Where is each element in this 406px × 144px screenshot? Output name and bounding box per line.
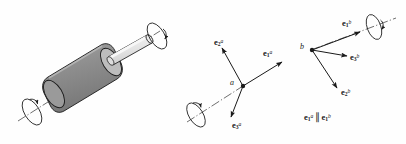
vector-e1-b-superscript: b <box>349 19 352 25</box>
vector-e1-b-label: e1b <box>342 19 351 29</box>
vector-e1-a-label: e1a <box>263 49 272 59</box>
rotation-ellipse-b <box>363 12 385 41</box>
vector-e2-b-superscript: b <box>348 88 351 94</box>
vector-e3-a-label: e3a <box>232 121 241 131</box>
triad-b-graphics <box>310 12 396 88</box>
vector-e2-a-label: e2a <box>214 38 223 48</box>
equation-right-superscript: b <box>328 113 331 119</box>
vector-e1-a-arrow <box>243 62 282 86</box>
vector-e3-b-superscript: b <box>357 53 360 59</box>
point-b-label: b <box>300 43 304 51</box>
rotation-ellipse-a <box>183 100 209 130</box>
parallel-relation-equation: e1a∥e1b <box>304 113 331 123</box>
equation-left-term: e1a <box>304 112 313 122</box>
figure-canvas: a e1a e2a e3a b e1b e3b e2b e1a∥e1b <box>0 0 406 144</box>
vector-e2-b-label: e2b <box>341 88 350 98</box>
vector-e3-b-arrow <box>312 50 347 56</box>
vector-e1-a-superscript: a <box>270 49 273 55</box>
vector-e3-a-arrow <box>231 86 243 117</box>
vector-e1-b-arrow <box>312 32 360 50</box>
equation-right-term: e1b <box>321 112 330 122</box>
vector-e2-a-superscript: a <box>221 38 224 44</box>
vector-e2-b-arrow <box>312 50 337 88</box>
vector-e3-a-superscript: a <box>239 121 242 127</box>
vector-e3-b-label: e3b <box>350 53 359 63</box>
triad-a-graphics <box>183 48 282 130</box>
point-a-label: a <box>230 79 234 87</box>
shaft-panel-graphics <box>18 20 171 129</box>
